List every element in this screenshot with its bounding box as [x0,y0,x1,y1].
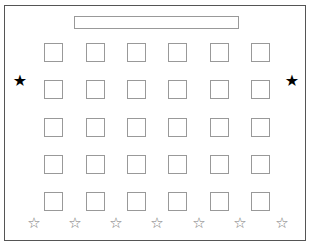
desk-square [210,80,229,99]
desk-square [86,155,105,174]
desk-square [168,43,187,62]
desk-square [127,80,146,99]
desk-square [86,192,105,211]
desk-square [210,118,229,137]
desk-square [251,118,270,137]
outline-star-icon: ☆ [149,216,165,231]
desk-square [168,80,187,99]
desk-square [210,192,229,211]
outline-star-icon: ☆ [274,216,290,231]
outline-star-icon: ☆ [108,216,124,231]
desk-square [251,43,270,62]
desk-square [44,155,63,174]
outline-star-icon: ☆ [67,216,83,231]
desk-square [44,118,63,137]
desk-square [168,155,187,174]
outline-star-icon: ☆ [232,216,248,231]
filled-star-icon: ★ [12,73,28,88]
desk-square [251,80,270,99]
desk-square [210,43,229,62]
desk-square [44,80,63,99]
desk-square [251,192,270,211]
outline-star-icon: ☆ [26,216,42,231]
desk-square [86,118,105,137]
desk-square [127,192,146,211]
front-board [74,16,239,29]
desk-square [44,43,63,62]
desk-square [127,43,146,62]
desk-square [86,43,105,62]
desk-square [168,118,187,137]
desk-square [251,155,270,174]
desk-square [127,118,146,137]
desk-square [86,80,105,99]
desk-square [210,155,229,174]
desk-square [44,192,63,211]
desk-square [168,192,187,211]
filled-star-icon: ★ [284,73,300,88]
desk-square [127,155,146,174]
outline-star-icon: ☆ [191,216,207,231]
